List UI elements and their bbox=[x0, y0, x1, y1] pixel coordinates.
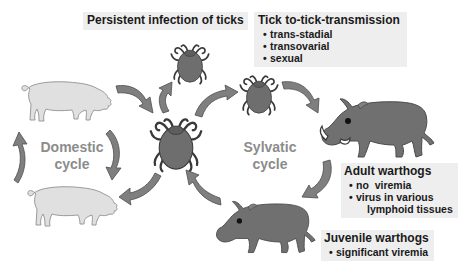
adult-warthogs-title: Adult warthogs bbox=[344, 165, 456, 179]
domestic-pig-top bbox=[22, 82, 111, 121]
juvenile-warthogs-title: Juvenile warthogs bbox=[324, 232, 432, 246]
domestic-pig-bottom bbox=[28, 187, 117, 226]
arrow-pig-to-tick bbox=[116, 86, 153, 113]
adult-warthogs-item: •virus in various bbox=[344, 191, 456, 203]
arrow-tick-central-to-top bbox=[159, 82, 172, 113]
bullet-icon: • bbox=[263, 40, 270, 52]
item-text: significant viremia bbox=[336, 246, 428, 258]
arrow-domestic-right bbox=[106, 130, 121, 180]
domestic-cycle-line2: cycle bbox=[54, 156, 89, 172]
tick-transmission-item: •transovarial bbox=[258, 40, 404, 52]
arrow-tick-to-pig bbox=[119, 173, 161, 205]
bullet-icon: • bbox=[263, 28, 270, 40]
tick-top-icon bbox=[171, 45, 208, 83]
bullet-icon: • bbox=[329, 246, 336, 258]
sylvatic-cycle-line2: cycle bbox=[252, 156, 287, 172]
tick-transmission-item: •trans-stadial bbox=[258, 28, 404, 40]
juvenile-warthog-icon bbox=[217, 201, 316, 252]
bullet-icon: • bbox=[349, 179, 356, 191]
juvenile-warthogs-item: •significant viremia bbox=[324, 246, 432, 258]
tick-transmission-item: •sexual bbox=[258, 52, 404, 64]
item-text: trans-stadial bbox=[270, 28, 332, 40]
arrow-tick-to-adult-warthog bbox=[282, 82, 319, 113]
arrow-adult-to-juvenile bbox=[302, 160, 331, 198]
item-text: virus in various bbox=[356, 191, 434, 203]
sylvatic-cycle-line1: Sylvatic bbox=[244, 139, 297, 155]
adult-warthogs-label: Adult warthogs •no viremia •virus in var… bbox=[341, 163, 458, 218]
tick-right-icon bbox=[240, 76, 277, 114]
domestic-cycle-label: Domestic cycle bbox=[36, 139, 108, 173]
bullet-icon: • bbox=[263, 52, 270, 64]
persistent-infection-label: Persistent infection of ticks bbox=[83, 12, 248, 30]
adult-warthogs-item-continued: lymphoid tissues bbox=[344, 203, 456, 215]
tick-central-icon bbox=[151, 119, 201, 171]
arrow-juvenile-to-tick bbox=[186, 170, 221, 205]
arrow-domestic-left bbox=[13, 132, 27, 183]
item-text: sexual bbox=[270, 52, 303, 64]
item-text: no viremia bbox=[356, 179, 411, 191]
persistent-infection-title: Persistent infection of ticks bbox=[87, 14, 244, 28]
adult-warthogs-item: •no viremia bbox=[344, 179, 456, 191]
tick-transmission-label: Tick to-tick-transmission •trans-stadial… bbox=[254, 12, 407, 67]
juvenile-warthogs-label: Juvenile warthogs •significant viremia bbox=[321, 230, 434, 261]
bullet-icon: • bbox=[349, 191, 356, 203]
sylvatic-cycle-label: Sylvatic cycle bbox=[236, 139, 304, 173]
domestic-cycle-line1: Domestic bbox=[40, 139, 103, 155]
adult-warthog-icon bbox=[322, 99, 434, 157]
arrow-tick-central-to-right bbox=[195, 85, 238, 117]
tick-transmission-title: Tick to-tick-transmission bbox=[258, 14, 404, 28]
item-text: transovarial bbox=[270, 40, 330, 52]
